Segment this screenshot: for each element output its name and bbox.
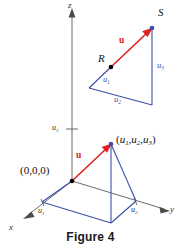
figure-4-diagram: z x y u3 u1 u2 (0,0,0) (u1,u2,u3) u u R … (0, 0, 181, 246)
axis-label-z: z (68, 1, 72, 10)
tick-label-z-u3: u3 (52, 124, 58, 132)
origin-dot (70, 179, 75, 184)
figure-caption: Figure 4 (0, 230, 181, 244)
vector-label-u-upper: u (119, 36, 124, 46)
z-axis (69, 8, 76, 181)
vector-label-u-lower: u (76, 151, 81, 161)
projection-box-lower (42, 144, 136, 223)
tick-label-y-u2: u2 (131, 206, 137, 214)
vector-diagram-svg (0, 0, 181, 246)
axis-label-y: y (170, 205, 174, 214)
point-label-R: R (98, 53, 105, 64)
triangle-leg-label-u2: u2 (114, 95, 121, 104)
origin-label: (0,0,0) (20, 165, 49, 176)
triangle-leg-label-u3: u3 (157, 61, 164, 70)
triangle-leg-label-u1: u1 (103, 75, 110, 84)
point-label-S: S (158, 7, 164, 18)
point-u-dot (109, 142, 114, 147)
vector-u-upper (111, 28, 153, 68)
point-S-dot (150, 26, 155, 31)
tick-label-x-u1: u1 (38, 207, 44, 215)
point-coordinates-label: (u1,u2,u3) (116, 134, 156, 145)
point-R-dot (109, 65, 114, 70)
y-axis (72, 181, 170, 214)
